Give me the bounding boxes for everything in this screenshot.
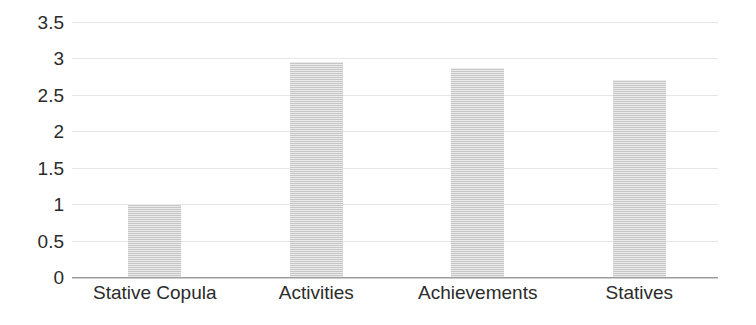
- x-axis-category-labels: Stative Copula Activities Achievements S…: [0, 283, 756, 323]
- y-tick-label: 2: [0, 122, 64, 141]
- bar: [290, 62, 343, 277]
- y-tick-label: 0.5: [0, 231, 64, 250]
- y-tick-label: 3.5: [0, 13, 64, 32]
- x-tick-label: Statives: [605, 283, 673, 304]
- y-tick-label: 3: [0, 49, 64, 68]
- y-tick-label: 1.5: [0, 158, 64, 177]
- y-tick-label: 2.5: [0, 85, 64, 104]
- bar-chart: 3.5 3 2.5 2 1.5 1 0.5 0 Stative Copula A…: [0, 0, 756, 325]
- x-tick-label: Stative Copula: [93, 283, 217, 304]
- y-axis-tick-labels: 3.5 3 2.5 2 1.5 1 0.5 0: [0, 0, 64, 325]
- x-tick-label: Activities: [279, 283, 354, 304]
- x-tick-label: Achievements: [418, 283, 537, 304]
- plot-area: [72, 22, 718, 277]
- bar: [613, 80, 666, 277]
- bars-layer: [72, 22, 718, 277]
- y-tick-label: 1: [0, 195, 64, 214]
- x-axis-baseline: [72, 277, 718, 278]
- bar: [451, 68, 504, 277]
- bar: [128, 204, 181, 277]
